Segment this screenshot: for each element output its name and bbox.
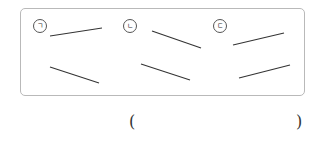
line-segment (50, 67, 99, 83)
line-segment (152, 31, 201, 48)
line-segment (239, 65, 290, 78)
line-segment (233, 33, 284, 45)
answer-blank[interactable] (140, 112, 290, 132)
line-segment (141, 64, 190, 80)
line-segment (50, 28, 102, 36)
answer-close-paren: ) (296, 112, 302, 131)
answer-open-paren: ( (129, 112, 135, 131)
